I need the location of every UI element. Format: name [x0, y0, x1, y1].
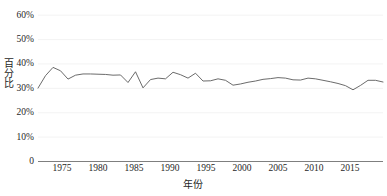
x-tick-label-1980: 1980	[78, 164, 118, 174]
x-axis-title: 年份	[163, 180, 223, 190]
x-tick-label-2015: 2015	[330, 164, 370, 174]
x-tick-label-1995: 1995	[186, 164, 226, 174]
gridlines	[38, 15, 383, 137]
y-axis-title: 百分比	[2, 58, 12, 88]
y-tick-label-10: 10%	[4, 133, 34, 143]
y-tick-label-0: 0	[4, 157, 34, 167]
x-tick-label-1985: 1985	[114, 164, 154, 174]
line-chart: 60% 50% 40% 30% 20% 10% 0 百分比 1975 1980 …	[0, 0, 387, 196]
series-line-percentage	[38, 67, 383, 89]
x-tick-label-2005: 2005	[258, 164, 298, 174]
x-tick-label-2000: 2000	[222, 164, 262, 174]
x-tick-label-1990: 1990	[150, 164, 190, 174]
x-tick-label-1975: 1975	[42, 164, 82, 174]
x-tick-label-2010: 2010	[294, 164, 334, 174]
y-tick-label-50: 50%	[4, 35, 34, 45]
y-tick-label-20: 20%	[4, 108, 34, 118]
y-tick-label-60: 60%	[4, 11, 34, 21]
